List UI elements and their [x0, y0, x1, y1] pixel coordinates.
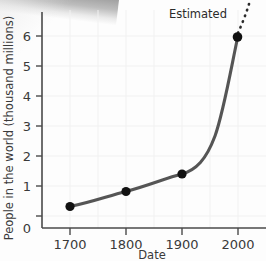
x-axis-ticks [70, 228, 238, 235]
y-tick-label-4: 4 [23, 89, 31, 104]
chart-canvas: 6 5 4 3 2 1 0 1700 1800 1900 2000 Date P… [0, 0, 266, 261]
x-tick-label-2000: 2000 [221, 237, 254, 252]
data-point-1800 [121, 187, 130, 196]
x-tick-label-1700: 1700 [53, 237, 86, 252]
y-axis-title: People in the world (thousand millions) [2, 16, 16, 241]
estimated-projection-line [238, 4, 249, 33]
data-point-2000 [233, 32, 243, 42]
estimated-annotation-label: Estimated [169, 7, 227, 21]
population-chart: 6 5 4 3 2 1 0 1700 1800 1900 2000 Date P… [0, 0, 266, 261]
y-tick-label-1: 1 [23, 179, 31, 194]
y-tick-label-6: 6 [23, 29, 31, 44]
data-point-1700 [65, 202, 74, 211]
gridlines [42, 10, 266, 228]
x-axis-title: Date [138, 248, 166, 261]
y-tick-label-2: 2 [23, 149, 31, 164]
y-tick-label-3: 3 [23, 119, 31, 134]
x-tick-label-1900: 1900 [165, 237, 198, 252]
data-point-1900 [177, 169, 186, 178]
y-tick-label-5: 5 [23, 59, 31, 74]
y-axis-ticks [36, 36, 42, 216]
y-tick-label-0: 0 [23, 221, 31, 236]
